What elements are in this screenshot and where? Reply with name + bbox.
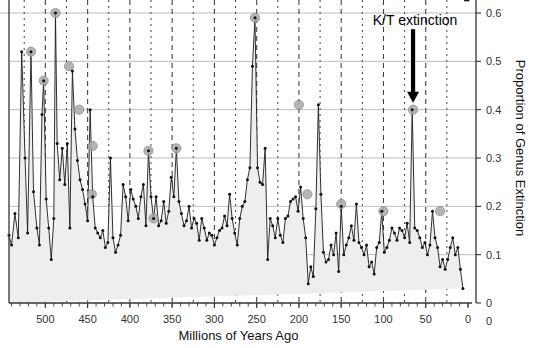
data-point [428,244,431,247]
data-point [54,12,57,15]
data-point [96,231,99,234]
data-point [175,147,178,150]
data-point [182,224,185,227]
data-point [200,217,203,220]
data-point [71,70,74,73]
data-point [84,202,87,205]
data-point [218,229,221,232]
data-point [52,217,55,220]
data-point [210,234,213,237]
data-point [180,212,183,215]
data-point [109,157,112,160]
data-point [312,275,315,278]
data-point [373,273,376,276]
data-point [157,224,160,227]
data-point [155,195,158,198]
data-point [322,251,325,254]
data-point [451,236,454,239]
data-point [195,222,198,225]
data-point [248,166,251,169]
data-point [13,212,16,215]
x-tick-label: 500 [36,313,54,325]
data-point [347,236,350,239]
data-point [289,200,292,203]
data-point [172,195,175,198]
data-point [408,241,411,244]
data-point [403,236,406,239]
data-point [89,108,92,111]
data-point [337,270,340,273]
data-point [368,265,371,268]
data-point [276,217,279,220]
data-point [413,227,416,230]
data-point [436,246,439,249]
data-point [319,193,322,196]
data-point [421,246,424,249]
data-point [114,251,117,254]
y-tick-label: 0 [486,297,492,309]
data-point [150,195,153,198]
x-axis-title: Millions of Years Ago [179,328,299,343]
data-point [122,183,125,186]
data-point [342,253,345,256]
data-point [243,200,246,203]
mass-extinction-marker [436,207,445,216]
data-point [24,157,27,160]
data-point [378,241,381,244]
data-point [330,244,333,247]
data-point [134,205,137,208]
data-point [423,241,426,244]
data-point [188,205,191,208]
data-point [32,190,35,193]
data-point [29,50,32,53]
data-point [309,265,312,268]
data-point [456,246,459,249]
y-tick-label: 0.1 [486,249,501,261]
data-point [375,246,378,249]
data-point [76,159,79,162]
data-point [251,65,254,68]
data-point [127,219,130,222]
data-point [193,217,196,220]
data-point [66,142,69,145]
data-point [454,253,457,256]
data-point [355,202,358,205]
data-point [40,113,43,116]
data-point [185,219,188,222]
data-point [132,198,135,201]
data-point [299,186,302,189]
data-point [292,198,295,201]
data-point [129,188,132,191]
data-point [221,227,224,230]
x-tick-label: 300 [205,313,223,325]
x-tick-label: 0 [465,313,471,325]
data-point [426,253,429,256]
data-point [124,195,127,198]
data-point [434,236,437,239]
data-point [314,207,317,210]
data-point [99,236,102,239]
data-point [441,258,444,261]
data-point [439,265,442,268]
data-point [406,222,409,225]
data-point [223,215,226,218]
data-point [393,231,396,234]
data-point [332,253,335,256]
x-tick-label: 250 [247,313,265,325]
data-point [246,178,249,181]
data-point [253,16,256,19]
data-point [104,246,107,249]
data-point [63,183,66,186]
data-point [142,183,145,186]
data-point [111,236,114,239]
data-point [416,229,419,232]
data-point [152,217,155,220]
data-point [231,217,234,220]
data-point [81,188,84,191]
data-point [395,239,398,242]
data-point [286,215,289,218]
data-point [236,244,239,247]
data-point [390,227,393,230]
data-point [363,253,366,256]
y-tick-label: 0.4 [486,104,501,116]
